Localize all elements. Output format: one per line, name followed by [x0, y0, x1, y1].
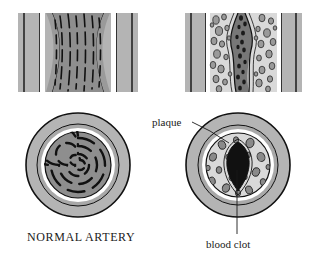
panel-diseased-longitudinal	[185, 13, 302, 92]
figure-svg: plaque blood clot NORMAL ARTERY	[0, 0, 326, 259]
blood-clot-label: blood clot	[206, 238, 250, 250]
annotation-normal-artery: NORMAL ARTERY	[27, 230, 135, 244]
panel-diseased-cross-section	[186, 113, 290, 217]
panel-normal-longitudinal	[18, 13, 138, 92]
panel-normal-cross-section	[24, 111, 130, 217]
normal-artery-label: NORMAL ARTERY	[27, 230, 135, 244]
plaque-label: plaque	[152, 116, 181, 128]
artery-comparison-figure: plaque blood clot NORMAL ARTERY	[0, 0, 326, 259]
